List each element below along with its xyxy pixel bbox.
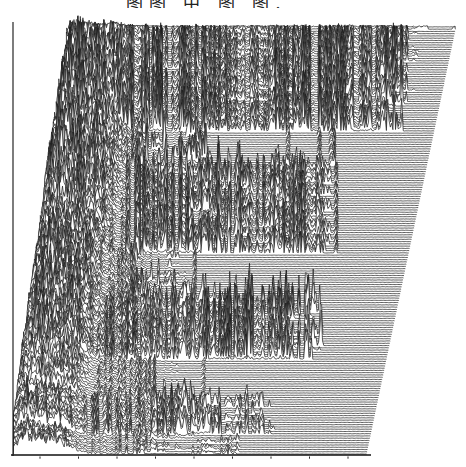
trace-lines (14, 16, 457, 455)
waterfall-plot (0, 0, 466, 467)
waterfall-figure: 图图 中 图 图. (0, 0, 466, 467)
